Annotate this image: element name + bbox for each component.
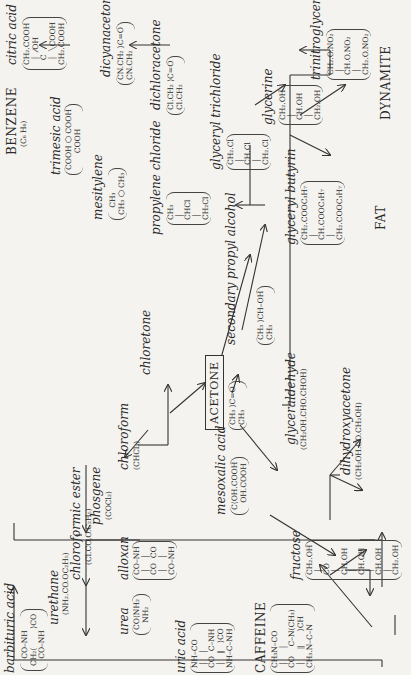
label-glycerine: glycerine (262, 68, 274, 125)
label-chloroform: chloroform (118, 403, 130, 470)
formula-glyceraldehyde: (CH₂OH.CHO.CHOH) (300, 368, 309, 450)
label-trinitroglycerine: trinitroglycerine (310, 0, 322, 80)
label-urea: urea (118, 607, 130, 635)
label-dicyanacetone: dicyanacetone* (100, 0, 112, 77)
formula-barbituric-acid: CO–NH CH₂⟨ ⟩CO CO–NH (20, 609, 48, 671)
label-alloxan: alloxan (118, 536, 130, 580)
label-secondary-propyl-alcohol: secondary propyl alcohol (225, 192, 237, 345)
label-barbituric-acid: barbituric acid (4, 583, 16, 673)
formula-alloxan: CO–NH │ │ CO CO │ │ CO–NH (132, 541, 177, 580)
formula-mesitylene: CH₃ CH₃ ⬡ CH₃ (108, 168, 127, 220)
label-urethane: urethane (48, 570, 60, 625)
formula-uric-acid: NH–CO │ │ CO C–NH │ ‖ ⟩CO NH–C–NH (190, 623, 235, 673)
label-propylene-chloride: propylene chloride (150, 120, 162, 235)
label-chloroformic-ester: chloroformic ester (70, 467, 82, 580)
label-citric-acid: citric acid (6, 4, 18, 65)
formula-citric-acid: CH₂.COOH │ ⁄OH C │ ╲COOH CH₂.COOH (22, 17, 67, 70)
label-trimesic-acid: trimesic acid (50, 96, 62, 175)
formula-urea: CO⟨NH₂ NH₂ (132, 594, 151, 635)
formula-phosgene: (COCl₂) (105, 491, 114, 520)
label-dynamite: DYNAMITE (380, 46, 392, 121)
formula-glycerine: CH₂.OH │ CH.OH │ CH₂.OH (278, 85, 323, 125)
formula-chloroformic-ester: (Cl.CO.O.C₂H₅) (85, 508, 94, 565)
formula-mesoxalic-acid: C⟨OH.COOH OH.COOH (230, 457, 249, 515)
acetone-derivatives-diagram: citric acid CH₂.COOH │ ⁄OH C │ ╲COOH CH₂… (0, 0, 411, 675)
label-mesoxalic-acid: mesoxalic acid (215, 426, 227, 515)
formula-dichloracetone: Cl.CH₂ ⟩C=O Cl.CH₂ (166, 56, 185, 115)
formula-acetone: CH₃ ⟩C=O CH₃ (228, 381, 247, 430)
label-dichloracetone: dichloracetone (150, 19, 162, 110)
formula-chloroform: (CHCl₃) (133, 441, 142, 470)
label-glyceryl-butyrin: glyceryl butyrin (285, 148, 297, 245)
formula-dihydroxyacetone: (CH₂OH.CO.CH₂OH) (355, 402, 364, 480)
formula-dicyanacetone: CN.CH₂ ⟩C=O CN.CH₂ (116, 22, 135, 85)
formula-glyceryl-butyrin: CH₂.COOC₃H₇ │ CH.COOC₃H₇ │ CH₂.COOC₃H₇ (300, 181, 345, 245)
formula-fructose: CH₂.OH │ CO │ CH.OH │ CH.OH │ CH.OH │ CH… (305, 540, 402, 580)
label-acetone: ACETONE (208, 361, 221, 424)
label-mesitylene: mesitylene (92, 154, 104, 220)
label-glyceryl-trichloride: glyceryl trichloride (210, 53, 222, 170)
formula-glyceryl-trichloride: CH₂.Cl │ CH.Cl │ CH₂.Cl (226, 134, 271, 170)
label-chloretone: chloretone (140, 310, 152, 375)
label-caffeine: CAFFEINE (255, 602, 267, 673)
formula-trinitroglycerine: CH₂.O.NO₂ │ CH.O.NO₂ │ CH₂.O.NO₂ (326, 29, 371, 80)
formula-benzene: (C₆ H₆) (20, 120, 29, 147)
acetone-box: ACETONE (205, 355, 224, 430)
label-fat: FAT (375, 205, 387, 230)
formula-trimesic-acid: COOH ⬡ COOH COOH (64, 104, 83, 175)
formula-caffeine: CH₃N–CO │ │ CO C–N(CH₃) │ ‖ ⟩CH CH₃.N–C–… (270, 604, 315, 673)
label-dihydroxyacetone: dihydroxyacetone (340, 367, 352, 475)
label-benzene: BENZENE (6, 87, 18, 155)
label-glyceraldehyde: glyceraldehyde (285, 352, 297, 445)
formula-propylene-chloride: CH₃ │ CHCl │ CH₂Cl (166, 192, 211, 225)
label-uric-acid: uric acid (175, 620, 187, 673)
formula-urethane: (NH₂.CO.OC₂H₅) (62, 552, 71, 615)
label-fructose: fructose (290, 530, 302, 580)
formula-secondary-propyl-alcohol: CH₃ ⟩CH–OH CH₃ (256, 286, 275, 345)
